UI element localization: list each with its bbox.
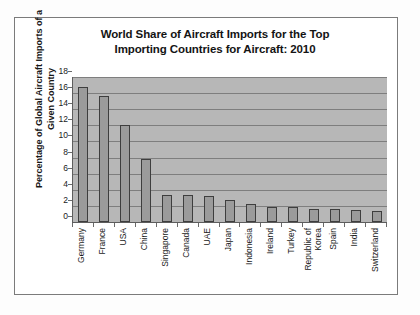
x-axis-tick-marks: [72, 223, 386, 227]
scanned-page: World Share of Aircraft Imports for the …: [0, 0, 420, 315]
bar-slot: [345, 77, 366, 222]
x-axis-label-slot: Singapore: [156, 228, 177, 315]
bar: [288, 207, 298, 222]
x-axis-tick-mark: [302, 223, 303, 227]
x-axis-category-label: China: [141, 228, 151, 250]
bar: [330, 209, 340, 222]
chart-title-line-1: World Share of Aircraft Imports for the …: [55, 27, 375, 42]
x-axis-label-slot: India: [344, 228, 365, 315]
bar-slot: [241, 77, 262, 222]
x-axis-category-label: Turkey: [287, 228, 297, 254]
y-axis-tick-label: 4: [50, 179, 68, 190]
x-axis-tick-mark: [260, 223, 261, 227]
bar: [120, 125, 130, 222]
bar-slot: [199, 77, 220, 222]
bar-slot: [73, 77, 94, 222]
x-axis-category-labels: GermanyFranceUSAChinaSingaporeCanadaUAEJ…: [72, 228, 386, 315]
x-axis-tick-mark: [72, 223, 73, 227]
y-axis-tick-label: 8: [50, 147, 68, 158]
x-axis-tick-mark: [198, 223, 199, 227]
x-axis-label-slot: China: [135, 228, 156, 315]
bar: [99, 96, 109, 222]
x-axis-label-slot: Japan: [219, 228, 240, 315]
chart-title: World Share of Aircraft Imports for the …: [55, 27, 375, 56]
x-axis-tick-mark: [93, 223, 94, 227]
bar-slot: [220, 77, 241, 222]
bar: [309, 209, 319, 222]
x-axis-category-label: UAE: [203, 228, 213, 245]
x-axis-category-label: Switzerland: [371, 228, 381, 272]
x-axis-category-label: USA: [120, 228, 130, 245]
bar: [162, 195, 172, 222]
y-axis-tick-mark: [68, 71, 72, 72]
x-axis-category-label: Singapore: [161, 228, 171, 267]
bar: [204, 196, 214, 222]
y-axis-tick-label: 2: [50, 195, 68, 206]
bar-slot: [178, 77, 199, 222]
bar: [225, 200, 235, 222]
x-axis-label-slot: UAE: [198, 228, 219, 315]
x-axis-category-label: Republic ofKorea: [303, 228, 322, 271]
chart-frame: World Share of Aircraft Imports for the …: [14, 17, 398, 295]
x-axis: GermanyFranceUSAChinaSingaporeCanadaUAEJ…: [72, 223, 386, 315]
bar: [183, 195, 193, 222]
bar: [351, 210, 361, 222]
bar: [246, 204, 256, 222]
y-axis-tick-label: 18: [50, 66, 68, 77]
x-axis-category-label: India: [350, 228, 360, 246]
x-axis-tick-mark: [239, 223, 240, 227]
x-axis-label-slot: Switzerland: [365, 228, 386, 315]
bar: [267, 207, 277, 222]
x-axis-label-slot: Turkey: [281, 228, 302, 315]
x-axis-label-slot: Germany: [72, 228, 93, 315]
plot-area-wrapper: 181614121086420: [72, 77, 386, 223]
y-axis-title-line-1: Percentage of Global Aircraft Imports of…: [34, 0, 46, 199]
x-axis-label-slot: Republic ofKorea: [302, 228, 323, 315]
x-axis-category-label: Ireland: [266, 228, 276, 254]
y-axis-tick-label: 0: [50, 211, 68, 222]
bar-slot: [157, 77, 178, 222]
x-axis-label-slot: France: [93, 228, 114, 315]
x-axis-tick-mark: [323, 223, 324, 227]
y-axis-tick-label: 12: [50, 114, 68, 125]
x-axis-tick-mark: [219, 223, 220, 227]
x-axis-tick-mark: [281, 223, 282, 227]
x-axis-category-label: Japan: [224, 228, 234, 251]
x-axis-tick-mark: [344, 223, 345, 227]
x-axis-label-slot: Spain: [323, 228, 344, 315]
x-axis-category-label: Indonesia: [245, 228, 255, 265]
chart-title-line-2: Importing Countries for Aircraft: 2010: [55, 42, 375, 57]
x-axis-category-label-line: Korea: [313, 228, 323, 271]
plot-area: [72, 77, 387, 223]
bar-slot: [366, 77, 387, 222]
x-axis-category-label: France: [99, 228, 109, 254]
x-axis-label-slot: USA: [114, 228, 135, 315]
bar-slot: [261, 77, 282, 222]
x-axis-label-slot: Ireland: [260, 228, 281, 315]
x-axis-category-label: Canada: [182, 228, 192, 258]
x-axis-tick-mark: [177, 223, 178, 227]
bar-slot: [136, 77, 157, 222]
y-axis-tick-label: 14: [50, 98, 68, 109]
x-axis-tick-mark: [156, 223, 157, 227]
x-axis-tick-mark: [135, 223, 136, 227]
bar-slot: [282, 77, 303, 222]
bar-slot: [324, 77, 345, 222]
x-axis-category-label: Spain: [329, 228, 339, 250]
bar-slot: [94, 77, 115, 222]
y-axis-tick-label: 10: [50, 130, 68, 141]
bar-slot: [115, 77, 136, 222]
x-axis-category-label-line: Republic of: [303, 228, 313, 271]
x-axis-category-label: Germany: [78, 228, 88, 263]
x-axis-tick-mark: [365, 223, 366, 227]
bar-series: [73, 77, 387, 222]
bar: [78, 87, 88, 222]
x-axis-label-slot: Indonesia: [240, 228, 261, 315]
bar: [372, 211, 382, 222]
y-axis-tick-label: 6: [50, 163, 68, 174]
x-axis-label-slot: Canada: [177, 228, 198, 315]
x-axis-tick-mark: [114, 223, 115, 227]
bar: [141, 159, 151, 222]
y-axis-tick-labels: 181614121086420: [50, 71, 68, 217]
bar-slot: [303, 77, 324, 222]
